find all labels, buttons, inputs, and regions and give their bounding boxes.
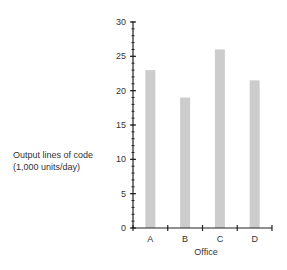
y-tick-label: 10 xyxy=(116,154,126,164)
y-tick-label: 5 xyxy=(121,189,126,199)
y-tick-label: 25 xyxy=(116,51,126,61)
y-axis-label-line-2: (1,000 units/day) xyxy=(13,161,93,173)
y-axis-label: Output lines of code (1,000 units/day) xyxy=(13,149,93,173)
x-tick-label-a: A xyxy=(147,234,153,244)
bar-b xyxy=(180,98,190,228)
x-tick-label-b: B xyxy=(182,234,188,244)
y-tick-label: 0 xyxy=(121,223,126,233)
bar-d xyxy=(250,80,260,228)
y-axis-label-line-1: Output lines of code xyxy=(13,149,93,161)
x-tick-label-c: C xyxy=(217,234,224,244)
y-tick-label: 15 xyxy=(116,120,126,130)
y-tick-label: 20 xyxy=(116,86,126,96)
x-tick-label-d: D xyxy=(251,234,258,244)
bar-a xyxy=(145,70,155,228)
y-tick-label: 30 xyxy=(116,17,126,27)
x-axis-label: Office xyxy=(186,247,226,257)
bar-chart: ABCD051015202530 xyxy=(0,0,287,270)
bar-c xyxy=(215,49,225,228)
